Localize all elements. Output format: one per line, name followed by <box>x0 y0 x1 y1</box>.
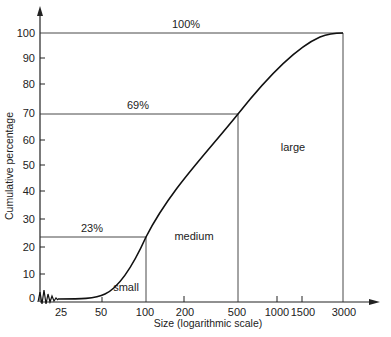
y-tick-40: 40 <box>23 185 35 197</box>
x-axis-title: Size (logarithmic scale) <box>154 317 263 329</box>
x-tick-50: 50 <box>95 306 107 318</box>
reference-lines <box>40 33 343 302</box>
y-tick-100: 100 <box>17 27 35 39</box>
region-label-large: large <box>281 141 305 153</box>
y-tick-70: 70 <box>23 107 35 119</box>
y-tick-60: 60 <box>23 134 35 146</box>
y-tick-90: 90 <box>23 52 35 64</box>
x-tick-1500: 1500 <box>291 306 315 318</box>
region-label-small: small <box>113 281 139 293</box>
ref-label-23: 23% <box>81 222 103 234</box>
y-tick-20: 20 <box>23 241 35 253</box>
ref-label-69: 69% <box>127 99 149 111</box>
y-tick-0: 0 <box>29 292 35 304</box>
x-tick-100: 100 <box>136 306 154 318</box>
x-tick-25: 25 <box>55 306 67 318</box>
x-axis: 25 50 100 200 500 1000 1500 3000 Size (l… <box>40 296 380 329</box>
cumulative-curve <box>58 33 343 299</box>
x-tick-1000: 1000 <box>265 306 289 318</box>
ref-label-100: 100% <box>172 18 200 30</box>
y-axis: 0 10 20 30 40 50 60 70 80 90 100 Cumulat… <box>3 6 45 304</box>
y-tick-80: 80 <box>23 78 35 90</box>
cumulative-chart: 0 10 20 30 40 50 60 70 80 90 100 Cumulat… <box>0 0 391 337</box>
y-tick-30: 30 <box>23 213 35 225</box>
y-tick-10: 10 <box>23 268 35 280</box>
y-tick-50: 50 <box>23 159 35 171</box>
region-label-medium: medium <box>174 230 213 242</box>
x-axis-arrow-icon <box>369 299 380 305</box>
x-tick-3000: 3000 <box>332 306 356 318</box>
y-axis-arrow-icon <box>37 6 43 16</box>
y-axis-title: Cumulative percentage <box>3 112 15 220</box>
